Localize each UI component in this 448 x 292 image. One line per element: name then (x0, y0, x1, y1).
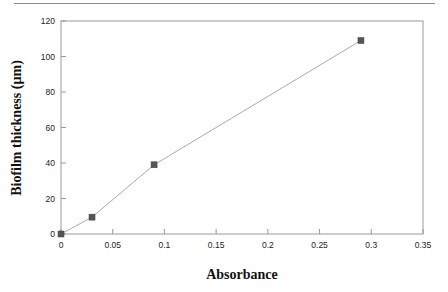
x-tick-label: 0.1 (159, 240, 171, 250)
y-tick-label: 40 (46, 158, 56, 168)
data-point-marker (151, 162, 157, 168)
x-axis-ticks: 00.050.10.150.20.250.30.35 (59, 229, 432, 250)
data-point-marker (58, 231, 64, 237)
x-tick-label: 0.35 (415, 240, 432, 250)
y-tick-label: 80 (46, 87, 56, 97)
x-tick-label: 0.2 (262, 240, 274, 250)
series-line (61, 41, 361, 235)
y-axis-title: Biofilm thickness (µm) (9, 60, 25, 196)
x-tick-label: 0.15 (208, 240, 225, 250)
x-tick-label: 0 (59, 240, 64, 250)
data-point-marker (89, 214, 95, 220)
y-tick-label: 0 (50, 229, 55, 239)
y-tick-label: 120 (41, 16, 55, 26)
x-tick-label: 0.25 (311, 240, 328, 250)
x-tick-label: 0.05 (104, 240, 121, 250)
y-tick-label: 60 (46, 123, 56, 133)
y-axis-ticks: 020406080100120 (41, 16, 66, 239)
x-axis-title: Absorbance (206, 267, 278, 282)
plot-frame (61, 21, 423, 234)
data-point-marker (358, 38, 364, 44)
data-series (58, 38, 364, 237)
x-tick-label: 0.3 (365, 240, 377, 250)
plot-area-border (61, 21, 423, 234)
y-tick-label: 100 (41, 52, 55, 62)
y-tick-label: 20 (46, 194, 56, 204)
chart: 020406080100120 00.050.10.150.20.250.30.… (0, 0, 448, 292)
